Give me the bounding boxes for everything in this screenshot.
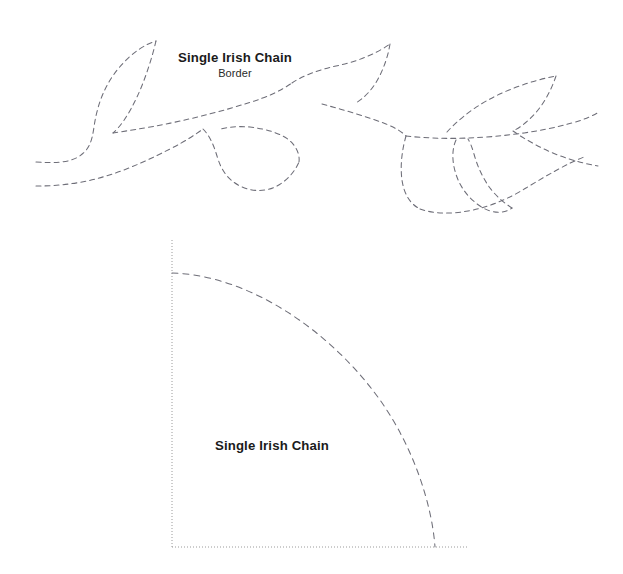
border-curl-right-lower (468, 139, 512, 208)
border-leaf-left-vein (113, 83, 292, 133)
border-spine-center (322, 104, 406, 136)
border-arc-upper-middle-inner (356, 44, 390, 103)
border-leaf-right-vein (513, 131, 598, 166)
border-spine-lower (36, 129, 203, 186)
border-leaf-right-outer (447, 76, 556, 132)
border-title: Single Irish Chain (145, 50, 325, 65)
border-leaf-right-inner (513, 76, 556, 131)
pattern-sheet: Single Irish Chain Border Single Irish C… (0, 0, 623, 574)
border-tail-lower-right (401, 136, 420, 209)
pattern-canvas (0, 0, 623, 574)
border-spine-lower-right (203, 129, 299, 191)
block-quilting-arc (172, 273, 435, 547)
border-subtitle: Border (145, 67, 325, 80)
block-title: Single Irish Chain (182, 438, 362, 453)
border-sweep-right-lower (406, 111, 600, 138)
border-tail-lower-right-2 (420, 157, 584, 213)
block-pattern-group (172, 240, 468, 547)
border-curl-center (221, 127, 299, 162)
border-leaf-left-outer (36, 41, 156, 162)
border-title-group: Single Irish Chain Border (145, 50, 325, 80)
